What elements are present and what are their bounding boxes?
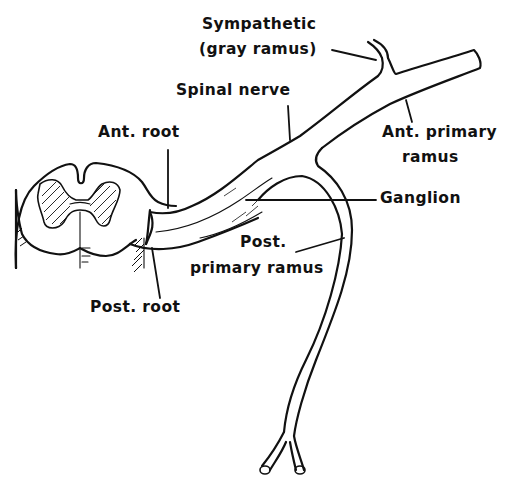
label-post: Post. bbox=[240, 233, 287, 252]
nerve-trunk bbox=[130, 40, 481, 474]
spinal-nerve-diagram: Sympathetic (gray ramus) Spinal nerve An… bbox=[0, 0, 509, 492]
label-post-primary-ramus: primary ramus bbox=[190, 259, 324, 278]
label-post-root: Post. root bbox=[90, 298, 180, 317]
label-ramus: ramus bbox=[402, 148, 459, 167]
label-ant-root: Ant. root bbox=[98, 123, 180, 142]
label-spinal-nerve: Spinal nerve bbox=[176, 81, 290, 100]
label-gray-ramus: (gray ramus) bbox=[199, 40, 317, 59]
label-ant-primary: Ant. primary bbox=[382, 123, 497, 142]
label-sympathetic: Sympathetic bbox=[202, 15, 316, 34]
label-ganglion: Ganglion bbox=[380, 189, 461, 208]
